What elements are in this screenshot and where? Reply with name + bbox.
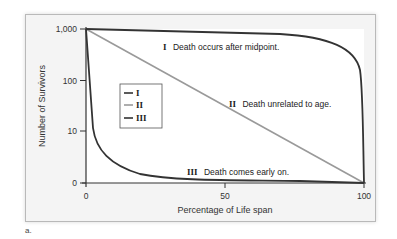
annotation-I-text: Death occurs after midpoint. [173,42,279,52]
annotation-III-text: Death comes early on. [204,167,289,177]
legend-label-II: II [136,100,144,110]
annotation-III-roman: III [187,167,198,177]
survivorship-chart: 1,000 100 10 0 0 50 100 Percentage of Li… [0,0,397,239]
x-axis-title: Percentage of Life span [177,205,272,215]
legend-label-III: III [136,113,147,123]
x-tick-label-100: 100 [357,191,371,201]
y-tick-label-0: 0 [72,178,77,188]
x-tick-label-0: 0 [84,191,89,201]
panel-label: a. [25,226,32,235]
legend-label-I: I [136,88,140,98]
annotation-II-text: Death unrelated to age. [242,99,331,109]
y-axis-title: Number of Survivors [37,64,47,147]
x-tick-label-50: 50 [220,191,230,201]
y-tick-label-100: 100 [63,76,77,86]
annotation-II-roman: II [229,99,237,109]
annotation-I-roman: I [163,42,167,52]
y-tick-label-1000: 1,000 [56,24,78,34]
y-tick-label-10: 10 [68,126,78,136]
